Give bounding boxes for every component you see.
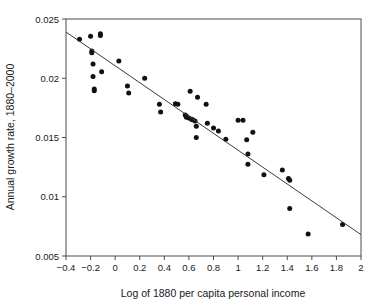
data-point [306, 232, 311, 237]
data-point [116, 59, 121, 64]
data-point [245, 162, 250, 167]
x-tick-label: 0.6 [182, 262, 195, 273]
x-tick-label: 1.8 [330, 262, 343, 273]
data-point [280, 168, 285, 173]
data-point [126, 91, 131, 96]
data-point [142, 76, 147, 81]
y-axis-title: Annual growth rate, 1880–2000 [4, 64, 16, 211]
x-axis-title: Log of 1880 per capita personal income [121, 287, 306, 299]
x-axis-ticks: −0.4−0.200.20.40.60.811.21.41.61.82 [57, 256, 364, 273]
x-tick-label: 1.6 [305, 262, 318, 273]
data-point [158, 110, 163, 115]
data-point [157, 102, 162, 107]
data-point [125, 83, 130, 88]
data-point [195, 95, 200, 100]
x-tick-label: 0.2 [133, 262, 146, 273]
data-point [92, 88, 97, 93]
data-points-layer [77, 31, 345, 236]
data-point [88, 34, 93, 39]
regression-line-layer [66, 32, 361, 235]
data-point [244, 137, 249, 142]
y-axis-ticks: 0.0050.010.0150.020.025 [35, 14, 66, 262]
data-point [194, 135, 199, 140]
data-point [287, 178, 292, 183]
x-tick-label: 0.4 [158, 262, 171, 273]
plot-frame [66, 19, 361, 256]
data-point [91, 74, 96, 79]
scatter-plot-figure: −0.4−0.200.20.40.60.811.21.41.61.82 0.00… [0, 0, 381, 306]
y-tick-label: 0.02 [41, 73, 60, 84]
data-point [241, 118, 246, 123]
x-tick-label: 1 [235, 262, 240, 273]
x-tick-label: 1.2 [256, 262, 269, 273]
data-point [250, 130, 255, 135]
data-point [287, 206, 292, 211]
x-tick-label: −0.2 [81, 262, 100, 273]
data-point [98, 33, 103, 38]
y-tick-label: 0.015 [35, 132, 59, 143]
data-point [205, 121, 210, 126]
y-tick-label: 0.025 [35, 14, 59, 25]
data-point [261, 172, 266, 177]
x-tick-label: 2 [358, 262, 363, 273]
data-point [236, 118, 241, 123]
plot-border [66, 19, 361, 256]
data-point [99, 69, 104, 74]
data-point [211, 126, 216, 131]
regression-line [66, 32, 361, 235]
x-tick-label: −0.4 [57, 262, 76, 273]
chart-canvas: −0.4−0.200.20.40.60.811.21.41.61.82 0.00… [0, 0, 381, 306]
x-tick-label: 1.4 [281, 262, 294, 273]
data-point [188, 89, 193, 94]
data-point [91, 62, 96, 67]
data-point [175, 102, 180, 107]
data-point [204, 102, 209, 107]
y-tick-label: 0.005 [35, 251, 59, 262]
y-tick-label: 0.01 [41, 191, 60, 202]
data-point [194, 124, 199, 129]
data-point [216, 128, 221, 133]
x-tick-label: 0 [113, 262, 118, 273]
x-tick-label: 0.8 [207, 262, 220, 273]
